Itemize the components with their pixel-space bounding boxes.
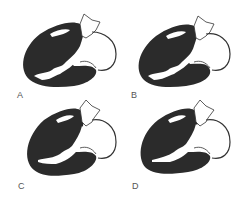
panel-label-c: C — [18, 182, 25, 191]
panel-label-a: A — [17, 91, 23, 100]
heart-ventricle-illustration-a — [0, 0, 126, 100]
panel-label-b: B — [131, 91, 137, 100]
panel-d: D — [126, 100, 252, 201]
panel-c: C — [0, 100, 126, 201]
panel-a: A — [0, 0, 126, 100]
panel-label-d: D — [132, 182, 139, 191]
heart-ventricle-illustration-d — [126, 100, 252, 201]
panel-b: B — [126, 0, 252, 100]
heart-ventricle-illustration-b — [126, 0, 252, 100]
